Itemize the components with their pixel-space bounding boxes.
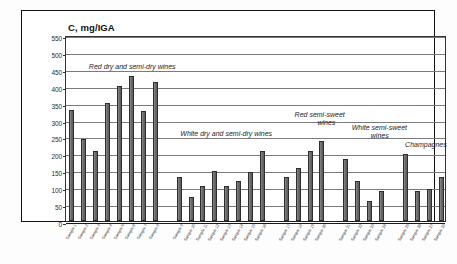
bar bbox=[177, 177, 182, 221]
y-tick-mark-50 bbox=[63, 207, 66, 208]
bar bbox=[319, 141, 324, 221]
bar bbox=[129, 76, 134, 221]
y-tick-mark-350 bbox=[63, 106, 66, 107]
gridline-200: 200 bbox=[66, 155, 445, 156]
bar bbox=[236, 181, 241, 221]
bar bbox=[284, 177, 289, 221]
bar bbox=[379, 191, 384, 221]
x-axis-labels: Sample 1Sample 2Sample 3Sample 4Sample 5… bbox=[65, 223, 446, 264]
y-tick-label-200: 200 bbox=[51, 153, 62, 160]
gridline-400: 400 bbox=[66, 88, 445, 89]
gridline-550: 550 bbox=[66, 37, 445, 38]
y-tick-label-300: 300 bbox=[51, 119, 62, 126]
group-annotation: White dry and semi-dry wines bbox=[180, 129, 272, 138]
x-tick-label: Sample 20 bbox=[313, 223, 327, 242]
bar bbox=[200, 186, 205, 221]
group-annotation: Red dry and semi-dry wines bbox=[89, 62, 176, 71]
figure-page: C, mg/IGA 050100150200250300350400450500… bbox=[0, 0, 457, 264]
gridline-100: 100 bbox=[66, 189, 445, 190]
y-tick-label-250: 250 bbox=[51, 136, 62, 143]
bar bbox=[212, 171, 217, 221]
bar bbox=[427, 189, 432, 221]
gridline-50: 50 bbox=[66, 206, 445, 207]
bar bbox=[224, 186, 229, 221]
gridline-150: 150 bbox=[66, 172, 445, 173]
gridline-350: 350 bbox=[66, 105, 445, 106]
bar bbox=[367, 201, 372, 221]
bar bbox=[308, 151, 313, 221]
bar bbox=[355, 181, 360, 221]
y-tick-label-400: 400 bbox=[51, 85, 62, 92]
bar bbox=[439, 177, 444, 221]
bar bbox=[403, 154, 408, 221]
group-annotation: wines bbox=[317, 118, 335, 127]
x-tick-label: Sample 3 bbox=[88, 223, 101, 240]
y-tick-label-0: 0 bbox=[58, 221, 62, 228]
y-tick-label-350: 350 bbox=[51, 102, 62, 109]
bar bbox=[189, 197, 194, 221]
y-tick-mark-450 bbox=[63, 72, 66, 73]
y-tick-label-450: 450 bbox=[51, 68, 62, 75]
x-tick-label: Sample 28 bbox=[432, 223, 446, 242]
y-tick-mark-100 bbox=[63, 190, 66, 191]
plot-area: 050100150200250300350400450500550Red dry… bbox=[65, 36, 446, 222]
bar bbox=[153, 82, 158, 221]
chart-title: C, mg/IGA bbox=[68, 22, 115, 33]
y-tick-mark-200 bbox=[63, 156, 66, 157]
group-annotation: wines bbox=[371, 131, 389, 140]
bar bbox=[117, 86, 122, 221]
y-tick-mark-150 bbox=[63, 173, 66, 174]
bar bbox=[141, 111, 146, 221]
y-tick-mark-550 bbox=[63, 38, 66, 39]
x-tick-label: Sample 2 bbox=[76, 223, 89, 240]
bar bbox=[248, 172, 253, 221]
y-tick-mark-400 bbox=[63, 89, 66, 90]
x-tick-label: Sample 8 bbox=[148, 223, 161, 240]
x-tick-label: Sample 4 bbox=[100, 223, 113, 240]
bar bbox=[81, 139, 86, 221]
figure-frame: C, mg/IGA 050100150200250300350400450500… bbox=[21, 10, 435, 222]
y-tick-label-100: 100 bbox=[51, 187, 62, 194]
bar bbox=[260, 151, 265, 221]
y-tick-label-500: 500 bbox=[51, 51, 62, 58]
y-tick-label-550: 550 bbox=[51, 35, 62, 42]
y-tick-label-50: 50 bbox=[55, 204, 62, 211]
bar bbox=[343, 159, 348, 221]
x-tick-label: Sample 1 bbox=[65, 223, 78, 240]
gridline-500: 500 bbox=[66, 54, 445, 55]
y-tick-mark-300 bbox=[63, 123, 66, 124]
y-tick-mark-500 bbox=[63, 55, 66, 56]
bar bbox=[93, 151, 98, 221]
y-tick-label-150: 150 bbox=[51, 170, 62, 177]
bar bbox=[296, 168, 301, 221]
bar bbox=[69, 110, 74, 221]
y-tick-mark-250 bbox=[63, 139, 66, 140]
bar bbox=[105, 103, 110, 221]
bar bbox=[415, 191, 420, 221]
group-annotation: Champagnes bbox=[405, 140, 447, 149]
